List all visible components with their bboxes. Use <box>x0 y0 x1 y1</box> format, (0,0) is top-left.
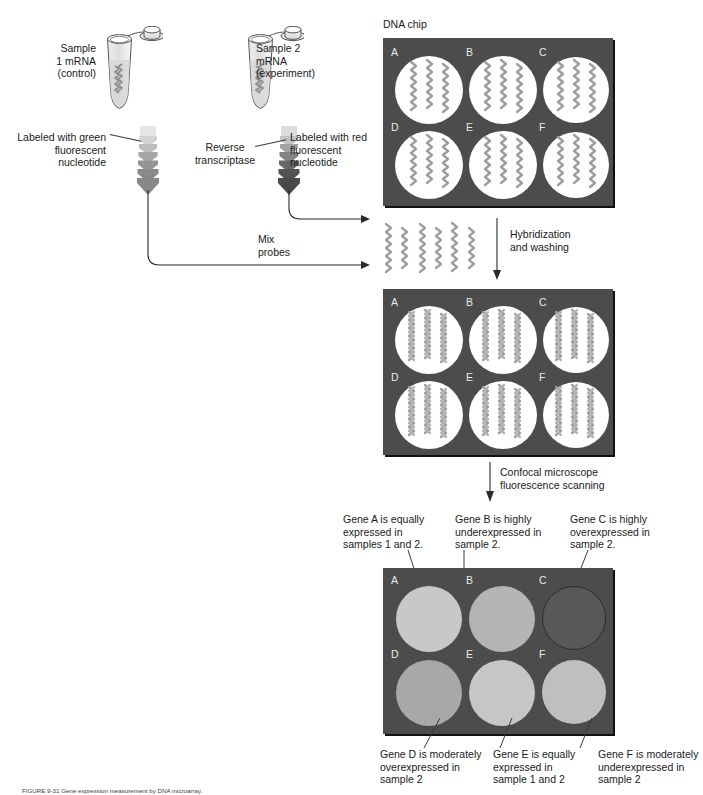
chip2-well-label-f: F <box>539 372 545 383</box>
dna-chip-unhybridized: A B C D E F <box>383 38 613 206</box>
result-annotation-d: Gene D is moderately overexpressed in sa… <box>380 748 495 786</box>
result-spot-f <box>542 660 606 724</box>
result-annotation-b: Gene B is highly underexpressed in sampl… <box>455 513 570 551</box>
dna-chip-hybridized: A B C D E F <box>383 289 613 455</box>
chip1-well-label-f: F <box>539 122 545 133</box>
chip1-well-label-c: C <box>539 47 547 58</box>
chip3-well-label-a: A <box>391 575 398 586</box>
scanning-label: Confocal microscope fluorescence scannin… <box>500 466 660 491</box>
result-annotation-f: Gene F is moderately underexpressed in s… <box>598 748 703 786</box>
red-label-text: Labeled with red fluorescent nucleotide <box>290 131 390 169</box>
chip3-well-label-e: E <box>466 649 473 660</box>
dna-chip-scanned: A B C D E F <box>383 568 613 734</box>
chip2-well-label-b: B <box>466 297 473 308</box>
result-spot-b <box>469 586 535 652</box>
chip3-well-label-b: B <box>466 575 473 586</box>
result-annotation-a: Gene A is equally expressed in samples 1… <box>343 513 453 551</box>
chip2-well-label-a: A <box>391 297 398 308</box>
chip3-well-label-f: F <box>539 649 545 660</box>
hybridization-arrow <box>490 218 504 282</box>
result-spot-e <box>469 660 535 726</box>
hybridization-label: Hybridization and washing <box>510 228 630 253</box>
result-spot-a <box>396 586 462 652</box>
figure-caption: FIGURE 9-31 Gene expression measurement … <box>22 787 672 795</box>
free-probe-strands <box>378 222 493 280</box>
chip3-well-label-c: C <box>539 575 547 586</box>
sample-2-label: Sample 2 mRNA (experiment) <box>256 42 346 80</box>
green-label-arrow <box>137 126 159 195</box>
result-spot-d <box>396 660 462 726</box>
chip1-well-label-b: B <box>466 47 473 58</box>
chip1-well-label-d: D <box>391 122 399 133</box>
result-annotation-c: Gene C is highly overexpressed in sample… <box>570 513 682 551</box>
mix-probes-connectors <box>130 190 375 275</box>
sample-1-tube <box>97 26 163 118</box>
result-spot-c <box>542 586 606 650</box>
result-annotation-e: Gene E is equally expressed in sample 1 … <box>493 748 598 786</box>
chip2-well-label-c: C <box>539 297 547 308</box>
chip2-well-label-d: D <box>391 372 399 383</box>
mix-probes-label: Mix probes <box>258 233 318 258</box>
chip3-well-label-d: D <box>391 649 399 660</box>
reverse-transcriptase-label: Reverse transcriptase <box>185 141 265 166</box>
result-bottom-leader-lines <box>340 718 640 752</box>
sample-1-label: Sample 1 mRNA (control) <box>34 42 96 80</box>
scanning-arrow <box>483 462 497 504</box>
chip1-well-label-a: A <box>391 47 398 58</box>
dna-chip-title: DNA chip <box>383 18 427 31</box>
chip1-well-label-e: E <box>466 122 473 133</box>
green-label-text: Labeled with green fluorescent nucleotid… <box>6 131 106 169</box>
chip2-well-label-e: E <box>466 372 473 383</box>
